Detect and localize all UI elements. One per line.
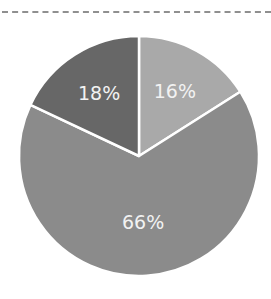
slice-label: 18%: [78, 82, 120, 104]
pie-chart: 16%66%18%: [0, 0, 271, 299]
slice-label: 16%: [154, 80, 196, 102]
slice-label: 66%: [122, 211, 164, 233]
